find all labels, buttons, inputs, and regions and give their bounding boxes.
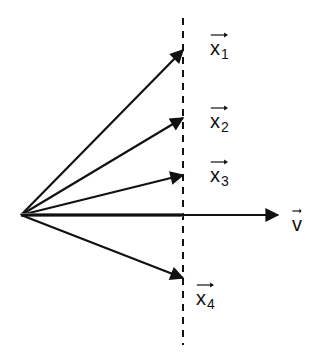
vector-label-x2: x2: [210, 111, 229, 134]
vector-symbol: v: [292, 213, 302, 235]
vector-arrow-accent-icon: [210, 32, 229, 38]
vector-arrow-accent-icon: [292, 208, 302, 214]
vector-subscript: 2: [221, 119, 229, 135]
vector-projection-diagram: [0, 0, 324, 358]
vector-arrow-x3: [21, 175, 183, 215]
vector-arrow-accent-icon: [210, 159, 229, 165]
vector-symbol: x: [210, 164, 220, 186]
vector-subscript: 4: [207, 296, 215, 312]
vector-arrow-accent-icon: [210, 105, 229, 111]
vector-arrow-accent-icon: [196, 282, 215, 288]
vector-symbol: x: [210, 110, 220, 132]
vector-symbol: x: [196, 287, 206, 309]
vector-symbol: x: [210, 37, 220, 59]
vector-label-v: v: [292, 214, 302, 234]
vector-label-x1: x1: [210, 38, 229, 61]
vector-subscript: 3: [221, 173, 229, 189]
vector-label-x4: x4: [196, 288, 215, 311]
vector-subscript: 1: [221, 46, 229, 62]
vector-arrow-x4: [21, 215, 183, 278]
vector-label-x3: x3: [210, 165, 229, 188]
vector-arrows: [21, 50, 278, 278]
